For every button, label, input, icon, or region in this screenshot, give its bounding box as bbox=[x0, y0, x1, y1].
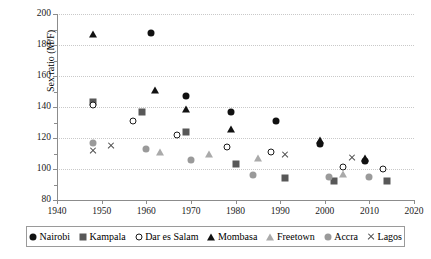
legend-label: Freetown bbox=[277, 232, 315, 242]
marker-triangle-filled bbox=[361, 155, 369, 162]
data-point bbox=[281, 175, 288, 182]
data-point bbox=[223, 144, 230, 151]
gridline bbox=[57, 107, 414, 108]
legend-label: Nairobi bbox=[39, 232, 70, 242]
marker-triangle-filled bbox=[89, 31, 97, 38]
legend-item-kampala[interactable]: Kampala bbox=[79, 232, 126, 242]
y-minor-tick-mark bbox=[54, 123, 57, 124]
legend-item-nairobi[interactable]: Nairobi bbox=[29, 232, 70, 242]
data-point bbox=[107, 142, 115, 150]
y-tick-mark bbox=[53, 14, 57, 15]
marker-circle-gray bbox=[366, 173, 373, 180]
data-point bbox=[89, 102, 96, 109]
legend-swatch bbox=[367, 233, 375, 241]
legend-swatch bbox=[207, 233, 215, 241]
marker-circle-filled bbox=[228, 108, 235, 115]
x-tick-label: 2000 bbox=[305, 207, 345, 217]
data-point bbox=[316, 136, 324, 143]
data-point bbox=[138, 108, 145, 115]
data-point bbox=[227, 125, 235, 132]
x-tick-mark bbox=[57, 200, 58, 204]
marker-square bbox=[80, 233, 87, 240]
marker-circle-gray bbox=[250, 172, 257, 179]
marker-cross bbox=[348, 154, 356, 162]
marker-square bbox=[138, 108, 145, 115]
legend-label: Kampala bbox=[90, 232, 126, 242]
legend-item-lagos[interactable]: Lagos bbox=[367, 232, 402, 242]
data-point bbox=[205, 150, 213, 157]
y-tick-label: 100 bbox=[19, 164, 51, 174]
marker-triangle-light bbox=[205, 150, 213, 157]
x-tick-mark bbox=[280, 200, 281, 204]
legend-item-mombasa[interactable]: Mombasa bbox=[207, 232, 257, 242]
data-point bbox=[182, 105, 190, 112]
marker-circle-filled bbox=[147, 29, 154, 36]
legend-item-dar-es-salam[interactable]: Dar es Salam bbox=[135, 232, 199, 242]
x-tick-label: 1990 bbox=[260, 207, 300, 217]
data-point bbox=[326, 173, 333, 180]
x-tick-label: 1960 bbox=[126, 207, 166, 217]
y-tick-mark bbox=[53, 45, 57, 46]
legend-swatch bbox=[324, 233, 332, 241]
marker-square bbox=[183, 128, 190, 135]
legend-swatch bbox=[79, 233, 87, 241]
data-point bbox=[183, 93, 190, 100]
data-point bbox=[384, 178, 391, 185]
marker-circle-filled bbox=[183, 93, 190, 100]
marker-cross bbox=[281, 151, 289, 159]
data-point bbox=[147, 29, 154, 36]
y-tick-mark bbox=[53, 76, 57, 77]
data-point bbox=[379, 166, 386, 173]
data-point bbox=[250, 172, 257, 179]
marker-circle-open bbox=[174, 131, 181, 138]
data-point bbox=[143, 145, 150, 152]
marker-circle-filled bbox=[29, 233, 36, 240]
marker-cross bbox=[89, 146, 97, 154]
marker-circle-open bbox=[223, 144, 230, 151]
legend-item-freetown[interactable]: Freetown bbox=[266, 232, 314, 242]
x-tick-mark bbox=[369, 200, 370, 204]
legend-swatch bbox=[266, 233, 274, 241]
gridline bbox=[57, 76, 414, 77]
data-point bbox=[361, 155, 369, 162]
x-tick-mark bbox=[191, 200, 192, 204]
data-point bbox=[339, 170, 347, 177]
marker-triangle-filled bbox=[316, 136, 324, 143]
data-point bbox=[151, 86, 159, 93]
data-point bbox=[254, 155, 262, 162]
marker-circle-filled bbox=[272, 117, 279, 124]
y-tick-label: 80 bbox=[19, 195, 51, 205]
legend-label: Lagos bbox=[378, 232, 402, 242]
y-minor-tick-mark bbox=[54, 61, 57, 62]
marker-circle-gray bbox=[324, 233, 331, 240]
marker-triangle-filled bbox=[151, 86, 159, 93]
marker-circle-open bbox=[129, 117, 136, 124]
data-point bbox=[89, 31, 97, 38]
x-tick-label: 1980 bbox=[216, 207, 256, 217]
y-tick-label: 160 bbox=[19, 71, 51, 81]
data-point bbox=[129, 117, 136, 124]
marker-square bbox=[281, 175, 288, 182]
marker-triangle-light bbox=[254, 155, 262, 162]
gridline bbox=[57, 169, 414, 170]
sex-ratio-scatter-chart: Sex ratio (M/F) 80100120140160180200 194… bbox=[0, 0, 431, 259]
legend-item-accra[interactable]: Accra bbox=[324, 232, 358, 242]
x-tick-label: 1940 bbox=[37, 207, 77, 217]
data-point bbox=[156, 148, 164, 155]
marker-triangle-light bbox=[156, 148, 164, 155]
y-tick-label: 140 bbox=[19, 102, 51, 112]
marker-circle-gray bbox=[89, 139, 96, 146]
legend-label: Dar es Salam bbox=[145, 232, 198, 242]
marker-triangle-filled bbox=[207, 233, 215, 240]
y-minor-tick-mark bbox=[54, 185, 57, 186]
marker-triangle-filled bbox=[227, 125, 235, 132]
marker-square bbox=[384, 178, 391, 185]
y-tick-label: 200 bbox=[19, 9, 51, 19]
marker-circle-gray bbox=[326, 173, 333, 180]
x-tick-mark bbox=[414, 200, 415, 204]
x-tick-mark bbox=[325, 200, 326, 204]
data-point bbox=[174, 131, 181, 138]
data-point bbox=[187, 156, 194, 163]
x-tick-label: 2010 bbox=[349, 207, 389, 217]
x-tick-mark bbox=[146, 200, 147, 204]
